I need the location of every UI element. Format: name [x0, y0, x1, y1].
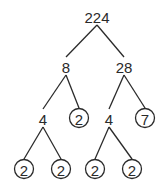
tree-edge — [24, 127, 43, 159]
prime-factor-node: 2 — [70, 109, 89, 128]
prime-factor-node: 2 — [15, 160, 34, 179]
tree-edge — [43, 127, 61, 159]
prime-factor-node: 2 — [86, 160, 105, 179]
node-label: 2 — [128, 162, 136, 179]
node-label: 224 — [84, 9, 109, 26]
factor-tree: 22482842472222 — [0, 0, 166, 191]
factor-node: 4 — [105, 111, 113, 128]
factor-node: 28 — [116, 59, 133, 76]
tree-edge — [109, 127, 132, 159]
tree-edge — [97, 25, 124, 57]
node-label: 2 — [57, 162, 65, 179]
prime-factor-node: 2 — [123, 160, 142, 179]
node-label: 7 — [141, 111, 149, 128]
node-label: 2 — [75, 111, 83, 128]
prime-factor-node: 2 — [52, 160, 71, 179]
node-label: 4 — [39, 111, 47, 128]
prime-factor-node: 7 — [136, 109, 155, 128]
tree-edge — [95, 127, 109, 159]
tree-edge — [124, 75, 145, 108]
tree-edge — [43, 75, 66, 109]
tree-edge — [109, 75, 124, 109]
node-label: 28 — [116, 59, 133, 76]
factor-node: 8 — [62, 59, 70, 76]
node-label: 8 — [62, 59, 70, 76]
factor-node: 224 — [84, 9, 109, 26]
factor-node: 4 — [39, 111, 47, 128]
node-label: 4 — [105, 111, 113, 128]
tree-edge — [66, 25, 97, 57]
node-label: 2 — [20, 162, 28, 179]
tree-edge — [66, 75, 79, 108]
node-label: 2 — [91, 162, 99, 179]
